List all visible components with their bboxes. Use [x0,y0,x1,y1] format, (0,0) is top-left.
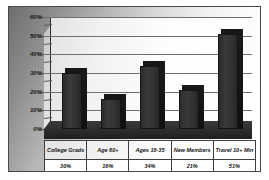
table-value-cell: 34% [129,160,171,173]
table-header-cell: Travel 10+ Min [213,141,255,160]
data-table: College GradsAge 60+Ages 18-35New Member… [44,140,256,172]
table-value-cell: 51% [213,160,255,173]
table-value-row: 30%16%34%21%51% [45,160,256,173]
table-header-cell: Ages 18-35 [129,141,171,160]
bar-front-face [62,73,82,129]
plot-area [44,17,252,139]
bar-front-face [218,34,238,129]
chart-frame: 0%10%20%30%40%50%60% College GradsAge 60… [8,6,261,172]
table-value-cell: 30% [45,160,87,173]
table-header-row: College GradsAge 60+Ages 18-35New Member… [45,141,256,160]
table-value-cell: 16% [87,160,129,173]
bar-column [62,73,82,129]
table-value-cell: 21% [171,160,213,173]
table-header-cell: College Grads [45,141,87,160]
bar-front-face [140,66,160,129]
table-header-cell: Age 60+ [87,141,129,160]
bar-column [179,90,199,129]
bar-front-face [101,99,121,129]
bar-column [101,99,121,129]
bars-layer [51,17,247,129]
bar-column [218,34,238,129]
table-header-cell: New Members [171,141,213,160]
bar-column [140,66,160,129]
y-axis-labels: 0%10%20%30%40%50%60% [9,17,42,139]
bar-front-face [179,90,199,129]
